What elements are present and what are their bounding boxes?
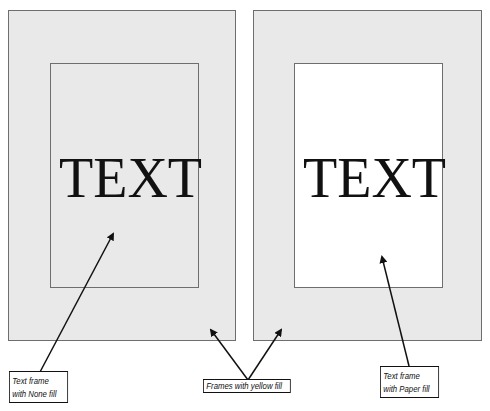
callout-yellow-fill: Frames with yellow fill xyxy=(203,379,291,393)
left-frame-text: TEXT xyxy=(59,150,202,206)
right-frame-text: TEXT xyxy=(303,150,446,206)
callout-yellow-fill-line1: Frames with yellow fill xyxy=(206,380,287,392)
callout-none-fill: Text frame with None fill xyxy=(9,371,68,403)
callout-none-fill-line2: with None fill xyxy=(12,387,64,400)
callout-paper-fill-line2: with Paper fill xyxy=(383,382,435,395)
callout-none-fill-line1: Text frame xyxy=(12,374,64,387)
callout-paper-fill: Text frame with Paper fill xyxy=(380,366,439,398)
callout-paper-fill-line1: Text frame xyxy=(383,369,435,382)
